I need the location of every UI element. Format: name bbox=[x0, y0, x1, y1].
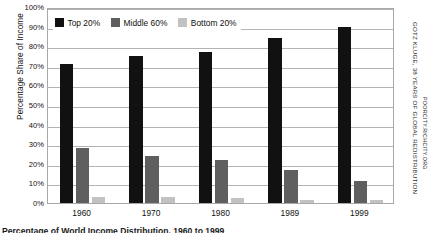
bar-group bbox=[256, 9, 325, 203]
x-axis-tick-label: 1999 bbox=[350, 208, 369, 218]
bar bbox=[268, 38, 282, 203]
x-axis-tick-label: 1980 bbox=[211, 208, 230, 218]
chart-figure: Percentage Share of Income 100%90%80%70%… bbox=[0, 0, 433, 233]
y-axis-tick-label: 70% bbox=[14, 63, 44, 71]
x-axis-tick-label: 1970 bbox=[142, 208, 161, 218]
x-axis-tick-labels: 19601970198019891999 bbox=[47, 208, 394, 222]
bar bbox=[231, 198, 245, 203]
bar bbox=[300, 200, 314, 203]
y-axis-tick-label: 0% bbox=[14, 200, 44, 208]
bar bbox=[145, 156, 159, 203]
credit-block: GOTZ KLUGE, 38 YEARS OF GLOBAL REDISTRIB… bbox=[404, 20, 430, 210]
bar bbox=[129, 56, 143, 203]
bar bbox=[338, 27, 352, 203]
y-axis-tick-label: 90% bbox=[14, 24, 44, 32]
bar-group bbox=[117, 9, 186, 203]
y-axis-tick-label: 10% bbox=[14, 180, 44, 188]
figure-caption: Percentage of World Income Distribution,… bbox=[2, 226, 412, 233]
bar-group bbox=[326, 9, 395, 203]
plot-area bbox=[47, 8, 394, 204]
y-axis-tick-label: 50% bbox=[14, 102, 44, 110]
legend-swatch-icon bbox=[178, 18, 187, 27]
x-axis-tick-label: 1960 bbox=[72, 208, 91, 218]
y-axis-tick-labels: 100%90%80%70%60%50%40%30%20%10%0% bbox=[14, 8, 44, 204]
bar bbox=[354, 181, 368, 203]
bar bbox=[161, 197, 175, 203]
legend-item: Middle 60% bbox=[111, 18, 167, 28]
bar bbox=[199, 52, 213, 203]
legend-item: Bottom 20% bbox=[178, 18, 236, 28]
bar bbox=[92, 197, 106, 203]
legend-label: Middle 60% bbox=[124, 18, 168, 28]
y-axis-tick-label: 40% bbox=[14, 122, 44, 130]
legend-label: Top 20% bbox=[68, 18, 101, 28]
credit-line-primary: GOTZ KLUGE, 38 YEARS OF GLOBAL REDISTRIB… bbox=[412, 22, 419, 194]
bar bbox=[76, 148, 90, 203]
y-axis-tick-label: 80% bbox=[14, 43, 44, 51]
credit-line-source: POORCITY.RICHCITY.ORG bbox=[422, 97, 428, 170]
y-axis-tick-label: 60% bbox=[14, 82, 44, 90]
y-axis-tick-label: 30% bbox=[14, 141, 44, 149]
y-axis-tick-label: 100% bbox=[14, 4, 44, 12]
bar-group bbox=[187, 9, 256, 203]
chart-legend: Top 20%Middle 60%Bottom 20% bbox=[53, 14, 241, 31]
y-axis-tick-label: 20% bbox=[14, 161, 44, 169]
legend-item: Top 20% bbox=[55, 18, 100, 28]
bar bbox=[370, 200, 384, 203]
bar bbox=[60, 64, 74, 203]
bar bbox=[284, 170, 298, 203]
bars-layer bbox=[48, 9, 393, 203]
legend-swatch-icon bbox=[55, 18, 64, 27]
legend-swatch-icon bbox=[111, 18, 120, 27]
legend-label: Bottom 20% bbox=[191, 18, 237, 28]
x-axis-tick-label: 1989 bbox=[281, 208, 300, 218]
bar-group bbox=[48, 9, 117, 203]
bar bbox=[215, 160, 229, 203]
